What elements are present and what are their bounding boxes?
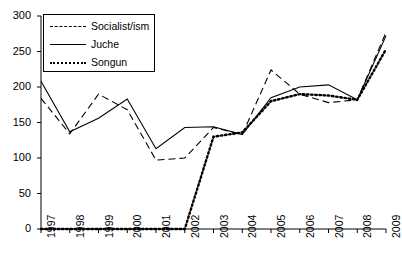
y-axis-tick-label: 200 [3, 81, 31, 92]
x-axis-tick-label: 2000 [132, 215, 143, 238]
x-axis-tick-label: 2003 [219, 215, 230, 238]
y-axis-tick-label: 300 [3, 10, 31, 21]
legend: Socialist/ism Juche Songun [43, 14, 155, 72]
y-axis-tick-label: 50 [3, 188, 31, 199]
x-axis-tick-label: 2007 [334, 215, 345, 238]
x-axis-tick-label: 2004 [247, 215, 258, 238]
dotted-line-swatch-icon [50, 57, 86, 67]
y-axis-tick-label: 250 [3, 46, 31, 57]
x-axis-tick-label: 1998 [75, 215, 86, 238]
x-axis-tick-label: 2009 [391, 215, 402, 238]
x-axis-tick-label: 1997 [46, 215, 57, 238]
x-axis-tick-label: 2005 [276, 215, 287, 238]
legend-item-songun: Songun [50, 54, 127, 70]
y-axis-tick-label: 100 [3, 152, 31, 163]
series-line [41, 49, 386, 229]
x-axis-tick-label: 2006 [305, 215, 316, 238]
legend-label: Socialist/ism [91, 20, 149, 32]
y-axis-tick-label: 0 [3, 223, 31, 234]
legend-label: Juche [91, 38, 119, 50]
legend-item-juche: Juche [50, 36, 119, 52]
x-axis-tick-label: 2001 [161, 215, 172, 238]
legend-item-socialist: Socialist/ism [50, 18, 149, 34]
dashed-line-swatch-icon [50, 21, 86, 31]
legend-label: Songun [91, 56, 127, 68]
x-axis-tick-label: 1999 [104, 215, 115, 238]
solid-line-swatch-icon [50, 39, 86, 49]
x-axis-tick-label: 2002 [190, 215, 201, 238]
y-axis-tick-label: 150 [3, 117, 31, 128]
x-axis-tick-label: 2008 [362, 215, 373, 238]
